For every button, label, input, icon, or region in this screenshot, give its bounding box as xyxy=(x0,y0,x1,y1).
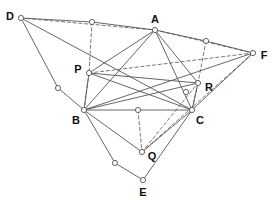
vertex-node-R xyxy=(195,80,200,85)
vertex-node-D xyxy=(18,15,23,20)
vertex-nodes-group xyxy=(18,15,255,182)
solid-edges-group xyxy=(21,18,253,180)
midpoint-node-M_BE xyxy=(112,160,117,165)
vertex-node-E xyxy=(140,177,145,182)
edge-D-A xyxy=(21,18,155,30)
edge-M_BE-E xyxy=(115,163,143,180)
vertex-node-C xyxy=(189,107,194,112)
edge-D-C xyxy=(21,18,192,110)
vertex-node-F xyxy=(250,50,255,55)
midpoint-node-M_RC xyxy=(183,89,188,94)
midpoint-node-M_AF xyxy=(203,38,208,43)
midpoint-node-M_DA xyxy=(89,19,94,24)
midpoint-node-M_BC xyxy=(135,107,140,112)
edge-P-F xyxy=(89,53,253,73)
edge-P-R xyxy=(89,73,198,83)
vertex-node-P xyxy=(86,70,91,75)
edge-M_DB-B xyxy=(58,88,84,110)
edge-M_DA-P xyxy=(89,22,92,73)
edge-M_AF-R xyxy=(198,41,206,83)
edge-P-B xyxy=(84,73,89,110)
edge-M_BC-Q xyxy=(138,110,142,152)
geometry-figure: DAFPRBCQE xyxy=(0,0,272,200)
edge-Q-F xyxy=(142,53,253,152)
vertex-node-B xyxy=(81,107,86,112)
edge-B-M_BE xyxy=(84,110,115,163)
geometry-canvas xyxy=(0,0,272,200)
vertex-node-A xyxy=(152,27,157,32)
edge-D-M_DB xyxy=(21,18,58,88)
edge-A-C xyxy=(155,30,192,110)
edge-B-Q xyxy=(84,110,142,152)
midpoint-node-M_DB xyxy=(55,85,60,90)
vertex-node-Q xyxy=(139,149,144,154)
